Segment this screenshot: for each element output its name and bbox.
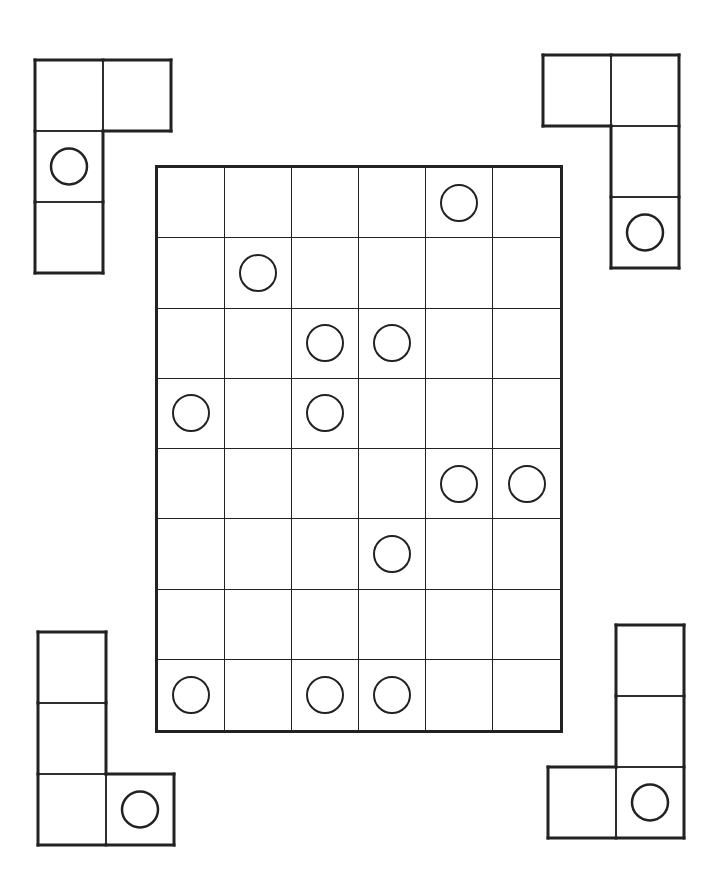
piece-outline bbox=[543, 55, 679, 268]
board-cell-r5-c5[interactable] bbox=[493, 519, 560, 589]
board-cell-r2-c0[interactable] bbox=[158, 309, 225, 379]
board-cell-r3-c1[interactable] bbox=[225, 379, 292, 449]
board-cell-r0-c4[interactable] bbox=[426, 168, 493, 238]
circle-marker bbox=[122, 792, 158, 828]
circle-marker bbox=[373, 324, 411, 362]
board-cell-r2-c2[interactable] bbox=[292, 309, 359, 379]
piece-outline bbox=[35, 60, 171, 273]
circle-marker bbox=[440, 465, 478, 503]
board-cell-r0-c3[interactable] bbox=[359, 168, 426, 238]
board-cell-r3-c2[interactable] bbox=[292, 379, 359, 449]
circle-marker bbox=[306, 324, 344, 362]
circle-marker bbox=[306, 676, 344, 714]
circle-marker bbox=[51, 149, 87, 185]
board-cell-r2-c3[interactable] bbox=[359, 309, 426, 379]
board-cell-r5-c3[interactable] bbox=[359, 519, 426, 589]
circle-marker bbox=[508, 465, 546, 503]
circle-marker bbox=[627, 215, 663, 251]
board-cell-r6-c4[interactable] bbox=[426, 590, 493, 660]
board-cell-r2-c4[interactable] bbox=[426, 309, 493, 379]
board-cell-r5-c0[interactable] bbox=[158, 519, 225, 589]
board-cell-r4-c3[interactable] bbox=[359, 449, 426, 519]
board-cell-r1-c3[interactable] bbox=[359, 238, 426, 308]
board-cell-r2-c1[interactable] bbox=[225, 309, 292, 379]
circle-marker bbox=[440, 184, 478, 222]
board-cell-r4-c5[interactable] bbox=[493, 449, 560, 519]
board-cell-r0-c1[interactable] bbox=[225, 168, 292, 238]
board-cell-r4-c4[interactable] bbox=[426, 449, 493, 519]
board-cell-r7-c2[interactable] bbox=[292, 660, 359, 730]
board-cell-r3-c5[interactable] bbox=[493, 379, 560, 449]
circle-marker bbox=[306, 394, 344, 432]
board-cell-r4-c1[interactable] bbox=[225, 449, 292, 519]
board-cell-r2-c5[interactable] bbox=[493, 309, 560, 379]
board-cell-r5-c4[interactable] bbox=[426, 519, 493, 589]
board-cell-r7-c3[interactable] bbox=[359, 660, 426, 730]
board-cell-r4-c2[interactable] bbox=[292, 449, 359, 519]
board-cell-r7-c4[interactable] bbox=[426, 660, 493, 730]
circle-marker bbox=[373, 676, 411, 714]
circle-marker bbox=[172, 676, 210, 714]
board-cell-r4-c0[interactable] bbox=[158, 449, 225, 519]
board-cell-r1-c2[interactable] bbox=[292, 238, 359, 308]
circle-marker bbox=[632, 785, 668, 821]
piece-outline bbox=[548, 625, 684, 838]
board-cell-r3-c3[interactable] bbox=[359, 379, 426, 449]
board-cell-r7-c1[interactable] bbox=[225, 660, 292, 730]
board-cell-r6-c3[interactable] bbox=[359, 590, 426, 660]
board-cell-r0-c2[interactable] bbox=[292, 168, 359, 238]
board-cell-r1-c1[interactable] bbox=[225, 238, 292, 308]
board-cell-r3-c0[interactable] bbox=[158, 379, 225, 449]
board-cell-r3-c4[interactable] bbox=[426, 379, 493, 449]
board-cell-r1-c4[interactable] bbox=[426, 238, 493, 308]
circle-marker bbox=[373, 535, 411, 573]
board-cell-r6-c1[interactable] bbox=[225, 590, 292, 660]
board-cell-r5-c2[interactable] bbox=[292, 519, 359, 589]
board-cell-r5-c1[interactable] bbox=[225, 519, 292, 589]
game-board bbox=[155, 165, 563, 733]
circle-marker bbox=[172, 394, 210, 432]
piece-outline bbox=[38, 632, 174, 845]
board-cell-r6-c2[interactable] bbox=[292, 590, 359, 660]
circle-marker bbox=[239, 254, 277, 292]
